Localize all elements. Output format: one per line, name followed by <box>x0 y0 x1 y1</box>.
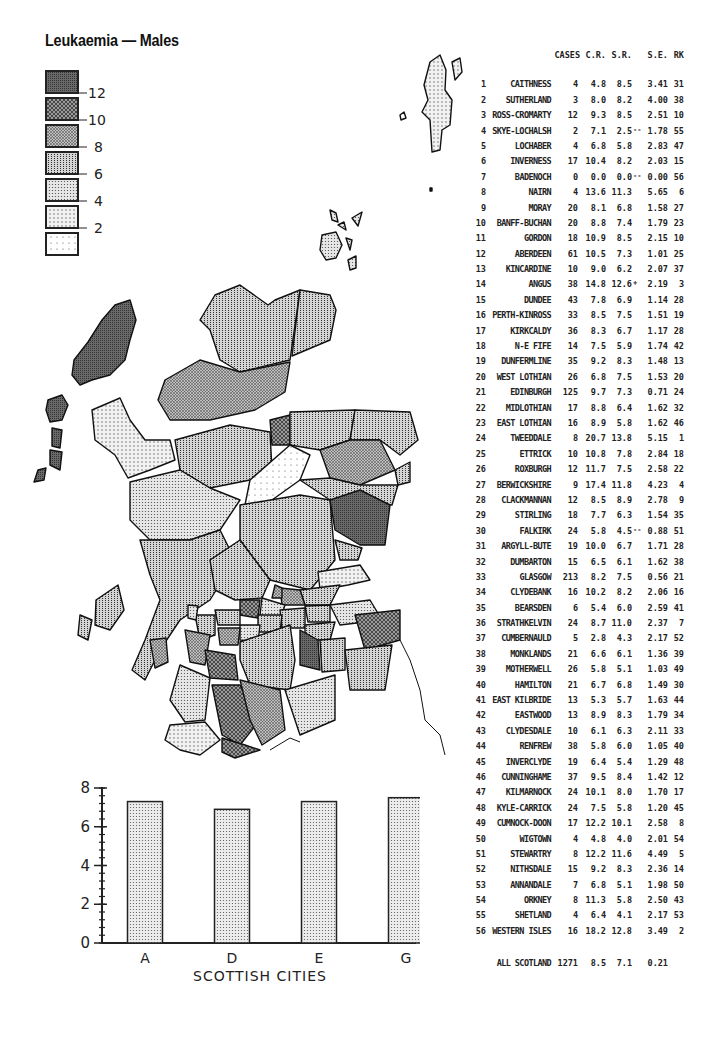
cell-n: 41 <box>470 695 486 705</box>
table-row: 33GLASGOW2138.27.50.5621 <box>470 572 709 587</box>
cell-sr: 4.5 <box>610 526 632 536</box>
table-row: 56WESTERN ISLES1618.212.83.492 <box>470 926 709 941</box>
cell-se: 1.54 <box>642 510 668 520</box>
region-edinburgh <box>305 605 330 622</box>
cell-rk: 35 <box>670 510 684 520</box>
cell-sr: 10.1 <box>610 818 632 828</box>
cell-name: MOTHERWELL <box>487 664 551 674</box>
cell-se: 2.37 <box>642 618 668 628</box>
cell-name: MIDLOTHIAN <box>487 403 551 413</box>
cell-se: 1.01 <box>642 249 668 259</box>
cell-rk: 32 <box>670 403 684 413</box>
cell-n: 13 <box>470 264 486 274</box>
table-row: 53ANNANDALE76.85.11.9850 <box>470 880 709 895</box>
cell-name: NAIRN <box>487 187 551 197</box>
cell-n: 52 <box>470 864 486 874</box>
table-row: 52NITHSDALE159.28.32.3614 <box>470 864 709 879</box>
table-row: 29STIRLING187.76.31.5435 <box>470 510 709 525</box>
cell-n: 34 <box>470 587 486 597</box>
cell-n: 47 <box>470 787 486 797</box>
cell-cr: 8.9 <box>582 710 606 720</box>
cell-cases: 37 <box>556 772 578 782</box>
region-annandale <box>285 675 335 735</box>
cell-n: 53 <box>470 880 486 890</box>
cell-se: 5.65 <box>642 187 668 197</box>
cell-name: DUNDEE <box>487 295 551 305</box>
legend-swatch-8 <box>46 125 78 147</box>
cell-n: 43 <box>470 726 486 736</box>
cell-name: INVERCLYDE <box>487 757 551 767</box>
cell-name: STIRLING <box>487 510 551 520</box>
cell-se: 5.15 <box>642 433 668 443</box>
cell-n: 14 <box>470 279 486 289</box>
table-row: 22MIDLOTHIAN178.86.41.6232 <box>470 403 709 418</box>
cell-sr: 6.2 <box>610 264 632 274</box>
table-row: 55SHETLAND46.44.12.1753 <box>470 910 709 925</box>
cell-rk: 52 <box>670 633 684 643</box>
cell-cases: 26 <box>556 664 578 674</box>
cell-cases: 3 <box>556 95 578 105</box>
cell-name: ANNANDALE <box>487 880 551 890</box>
cell-cases: 17 <box>556 818 578 828</box>
table-row: 50WIGTOWN44.84.02.0154 <box>470 834 709 849</box>
cell-se: 4.00 <box>642 95 668 105</box>
table-row: 16PERTH-KINROSS338.57.51.5119 <box>470 310 709 325</box>
cell-name: SKYE-LOCHALSH <box>487 126 551 136</box>
cell-name: N-E FIFE <box>487 341 551 351</box>
cell-cr: 10.9 <box>582 233 606 243</box>
cell-sr: 7.5 <box>610 310 632 320</box>
cell-sr: 13.8 <box>610 433 632 443</box>
cell-rk: 7 <box>670 618 684 628</box>
cell-rk: 28 <box>670 326 684 336</box>
table-row: 46CUNNINGHAME379.58.41.4212 <box>470 772 709 787</box>
cell-cr: 11.3 <box>582 895 606 905</box>
cell-n: 20 <box>470 372 486 382</box>
cell-cases: 2 <box>556 126 578 136</box>
cell-cr: 6.8 <box>582 141 606 151</box>
cell-cases: 14 <box>556 341 578 351</box>
cell-sr: 6.8 <box>610 680 632 690</box>
cell-cr: 6.5 <box>582 557 606 567</box>
y-tick-label: 0 <box>80 934 90 952</box>
cell-name: CUNNINGHAME <box>487 772 551 782</box>
cell-cases: 26 <box>556 372 578 382</box>
cell-se: 2.58 <box>642 818 668 828</box>
cell-sr: 7.5 <box>610 464 632 474</box>
cell-se: 1.79 <box>642 218 668 228</box>
cell-name: ARGYLL-BUTE <box>487 541 551 551</box>
region-berwickshire <box>355 610 400 650</box>
cell-cr: 5.8 <box>582 741 606 751</box>
cell-cases: 125 <box>556 387 578 397</box>
cell-rk: 10 <box>670 110 684 120</box>
region-eastwood <box>218 628 240 645</box>
cell-rk: 44 <box>670 695 684 705</box>
region-glasgow <box>215 610 240 625</box>
cell-cr: 10.8 <box>582 449 606 459</box>
cell-se: 0.00 <box>642 172 668 182</box>
cell-rk: 46 <box>670 418 684 428</box>
cell-cases: 19 <box>556 757 578 767</box>
cell-cr: 9.0 <box>582 264 606 274</box>
cell-name: EAST LOTHIAN <box>487 418 551 428</box>
cell-sr: 11.6 <box>610 849 632 859</box>
cell-cases: 16 <box>556 587 578 597</box>
cell-cases: 12 <box>556 110 578 120</box>
cell-sr: 5.8 <box>610 418 632 428</box>
cell-n: 19 <box>470 356 486 366</box>
cell-n: 22 <box>470 403 486 413</box>
cell-sr: 6.7 <box>610 541 632 551</box>
cell-cases: 16 <box>556 926 578 936</box>
table-row: 1CAITHNESS44.88.53.4131 <box>470 79 709 94</box>
cell-cr: 17.4 <box>582 480 606 490</box>
cell-n: 42 <box>470 710 486 720</box>
cell-se: 1.79 <box>642 710 668 720</box>
cell-sr: 8.3 <box>610 710 632 720</box>
cell-rk: 2 <box>670 926 684 936</box>
cell-rk: 34 <box>670 710 684 720</box>
cell-name: ROXBURGH <box>487 464 551 474</box>
cell-cases: 4 <box>556 834 578 844</box>
cell-sr: 8.9 <box>610 495 632 505</box>
table-row: 41EAST KILBRIDE135.35.71.6344 <box>470 695 709 710</box>
legend-label-6: 6 <box>94 166 103 182</box>
cell-n: 36 <box>470 618 486 628</box>
